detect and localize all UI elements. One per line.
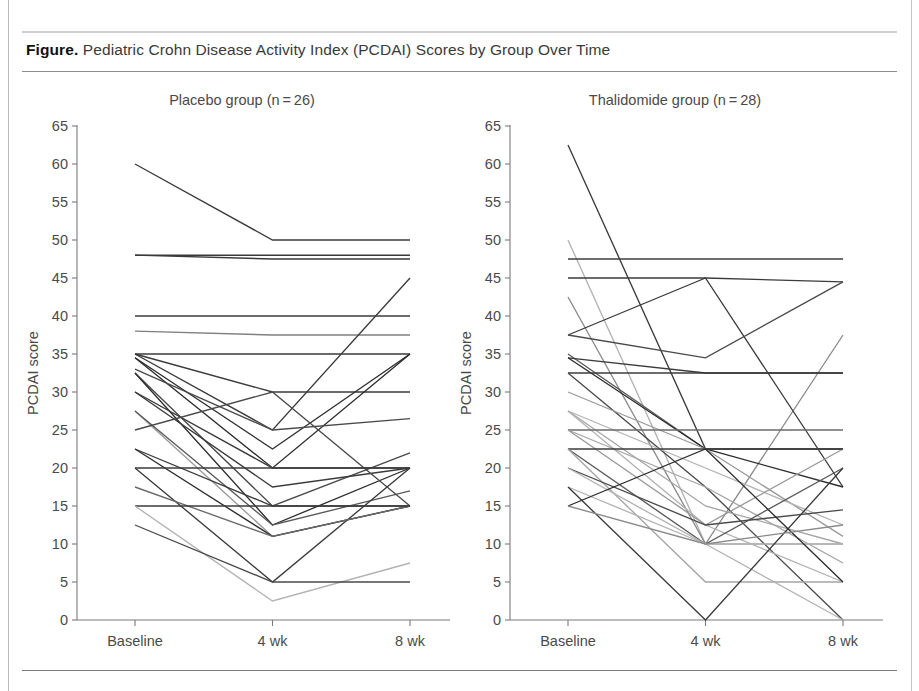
patient-trajectory-line — [135, 506, 410, 601]
panel-thalidomide: Thalidomide group (n = 28) 0510152025303… — [455, 88, 895, 648]
x-tick-label: 8 wk — [828, 633, 859, 648]
y-tick-label: 10 — [52, 536, 68, 552]
panel-placebo: Placebo group (n = 26) 05101520253035404… — [22, 88, 462, 648]
y-tick-label: 20 — [485, 460, 501, 476]
patient-trajectory-line — [135, 487, 410, 536]
patient-trajectory-line — [568, 411, 843, 525]
y-tick-label: 55 — [52, 194, 68, 210]
title-underline-rule — [22, 71, 897, 72]
panel-thalidomide-plot: 05101520253035404550556065PCDAI scoreBas… — [455, 114, 895, 648]
y-tick-label: 30 — [52, 384, 68, 400]
figure-label: Figure. — [26, 41, 78, 58]
placebo-spaghetti-chart: 05101520253035404550556065PCDAI scoreBas… — [22, 114, 462, 648]
patient-trajectory-line — [135, 354, 410, 392]
y-tick-label: 15 — [52, 498, 68, 514]
patient-trajectory-line — [568, 373, 843, 620]
y-tick-label: 65 — [52, 118, 68, 134]
patient-trajectory-line — [568, 449, 843, 582]
y-tick-label: 35 — [485, 346, 501, 362]
y-tick-label: 5 — [60, 574, 68, 590]
patient-trajectory-line — [568, 468, 843, 525]
y-tick-label: 5 — [493, 574, 501, 590]
panel-placebo-title: Placebo group (n = 26) — [22, 92, 462, 108]
patient-trajectory-line — [135, 449, 410, 536]
y-tick-label: 55 — [485, 194, 501, 210]
y-tick-label: 25 — [485, 422, 501, 438]
y-tick-label: 30 — [485, 384, 501, 400]
patient-trajectory-line — [568, 354, 843, 449]
y-tick-label: 50 — [52, 232, 68, 248]
patient-trajectory-line — [568, 487, 843, 620]
panels-container: Placebo group (n = 26) 05101520253035404… — [0, 88, 919, 648]
patient-trajectory-line — [568, 145, 843, 449]
y-tick-label: 50 — [485, 232, 501, 248]
x-tick-label: 4 wk — [691, 633, 722, 648]
patient-trajectory-line — [135, 392, 410, 487]
x-tick-label: Baseline — [107, 633, 163, 648]
figure-caption: Pediatric Crohn Disease Activity Index (… — [83, 41, 611, 58]
y-tick-label: 35 — [52, 346, 68, 362]
y-axis-title: PCDAI score — [458, 331, 474, 415]
patient-trajectory-line — [568, 297, 843, 544]
patient-trajectory-line — [568, 449, 843, 582]
y-tick-label: 60 — [52, 156, 68, 172]
patient-trajectory-line — [568, 282, 843, 358]
thalidomide-spaghetti-chart: 05101520253035404550556065PCDAI scoreBas… — [455, 114, 895, 648]
bottom-rule — [22, 670, 897, 671]
y-axis-title: PCDAI score — [25, 331, 41, 415]
patient-trajectory-line — [135, 331, 410, 335]
y-tick-label: 45 — [485, 270, 501, 286]
patient-trajectory-line — [135, 373, 410, 506]
patient-trajectory-line — [135, 164, 410, 240]
y-tick-label: 45 — [52, 270, 68, 286]
patient-trajectory-line — [135, 525, 410, 582]
y-tick-label: 0 — [493, 612, 501, 628]
y-tick-label: 60 — [485, 156, 501, 172]
y-tick-label: 65 — [485, 118, 501, 134]
y-tick-label: 0 — [60, 612, 68, 628]
top-rule — [22, 31, 897, 33]
figure-title: Figure. Pediatric Crohn Disease Activity… — [26, 40, 896, 60]
x-tick-label: 8 wk — [395, 633, 426, 648]
y-tick-label: 40 — [52, 308, 68, 324]
x-tick-label: 4 wk — [258, 633, 289, 648]
patient-trajectory-line — [135, 354, 410, 468]
patient-trajectory-line — [568, 240, 843, 544]
patient-trajectory-line — [135, 354, 410, 449]
y-tick-label: 25 — [52, 422, 68, 438]
y-tick-label: 10 — [485, 536, 501, 552]
figure-page: Figure. Pediatric Crohn Disease Activity… — [0, 0, 919, 691]
panel-thalidomide-title: Thalidomide group (n = 28) — [455, 92, 895, 108]
patient-trajectory-line — [568, 411, 843, 582]
y-tick-label: 15 — [485, 498, 501, 514]
panel-placebo-plot: 05101520253035404550556065PCDAI scoreBas… — [22, 114, 462, 648]
x-tick-label: Baseline — [540, 633, 596, 648]
patient-trajectory-line — [568, 449, 843, 544]
y-tick-label: 40 — [485, 308, 501, 324]
patient-trajectory-line — [135, 449, 410, 506]
y-tick-label: 20 — [52, 460, 68, 476]
